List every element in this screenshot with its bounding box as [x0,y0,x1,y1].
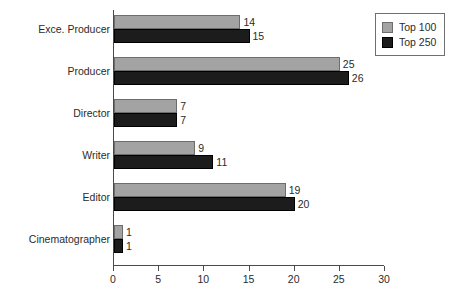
legend-item-top-250: Top 250 [382,35,436,49]
legend-item-top-100: Top 100 [382,20,436,34]
bar-chart: 1415252677911192011 051015202530 Exce. P… [0,0,469,301]
x-tick-label: 20 [274,273,314,285]
x-tick-label: 0 [93,273,133,285]
bar-top-250-exce-producer [114,29,250,43]
bar-value-label: 11 [216,156,227,168]
x-tick-mark [158,266,159,271]
category-label-producer: Producer [0,65,110,77]
category-label-director: Director [0,107,110,119]
bar-value-label: 20 [298,198,310,210]
bar-top-100-exce-producer [114,15,240,29]
bar-value-label: 14 [243,16,255,28]
x-tick-label: 25 [319,273,359,285]
bar-top-100-writer [114,141,195,155]
legend-swatch-icon [382,22,393,33]
bar-top-250-editor [114,197,295,211]
bar-top-100-editor [114,183,286,197]
bar-value-label: 1 [126,226,132,238]
bar-value-label: 1 [126,240,132,252]
x-tick-mark [384,266,385,271]
x-tick-mark [203,266,204,271]
bar-value-label: 15 [253,30,265,42]
x-tick-mark [113,266,114,271]
bar-top-250-producer [114,71,349,85]
x-tick-mark [294,266,295,271]
legend-label: Top 100 [399,21,436,33]
category-label-editor: Editor [0,191,110,203]
bar-value-label: 19 [289,184,301,196]
bar-value-label: 7 [180,114,186,126]
plot-area: 1415252677911192011 051015202530 [113,10,384,265]
category-label-exce-producer: Exce. Producer [0,23,110,35]
bar-top-100-director [114,99,177,113]
category-label-cinematographer: Cinematographer [0,233,110,245]
x-tick-mark [339,266,340,271]
bar-top-250-writer [114,155,213,169]
x-tick-label: 30 [364,273,404,285]
bar-value-label: 25 [343,58,355,70]
x-tick-label: 5 [138,273,178,285]
bar-value-label: 9 [198,142,204,154]
bar-top-250-director [114,113,177,127]
bar-top-250-cinematographer [114,239,123,253]
x-tick-mark [249,266,250,271]
legend-label: Top 250 [399,36,436,48]
legend-swatch-icon [382,37,393,48]
bar-value-label: 26 [352,72,364,84]
category-label-writer: Writer [0,149,110,161]
bar-value-label: 7 [180,100,186,112]
x-tick-label: 15 [229,273,269,285]
bar-top-100-producer [114,57,340,71]
x-tick-label: 10 [183,273,223,285]
bar-top-100-cinematographer [114,225,123,239]
chart-legend: Top 100Top 250 [375,13,445,56]
